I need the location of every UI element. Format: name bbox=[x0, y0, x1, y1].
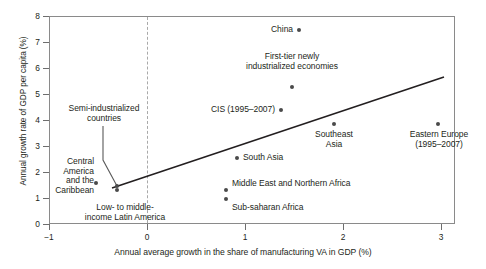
label-semi-industrialized: Semi-industrialized countries bbox=[44, 104, 164, 123]
x-axis-title: Annual average growth in the share of ma… bbox=[0, 247, 486, 257]
x-tick-mark-0 bbox=[147, 224, 148, 230]
y-tick-label-6: 6 bbox=[24, 63, 40, 73]
label-eastern-europe: Eastern Europe (1995–2007) bbox=[395, 130, 483, 149]
y-tick-mark-6 bbox=[43, 68, 49, 69]
label-central-america-caribbean: Central America and the Caribbean bbox=[38, 157, 94, 195]
scatter-chart: Annual growth rate of GDP per capita (%)… bbox=[0, 0, 486, 269]
y-tick-label-5: 5 bbox=[24, 89, 40, 99]
label-first-tier: First-tier newly industrialized economie… bbox=[222, 52, 362, 71]
x-tick-mark-neg1 bbox=[49, 224, 50, 230]
label-sub-saharan-africa: Sub-saharan Africa bbox=[232, 203, 352, 213]
y-tick-label-7: 7 bbox=[24, 37, 40, 47]
x-tick-mark-3 bbox=[441, 224, 442, 230]
y-tick-mark-1 bbox=[43, 198, 49, 199]
x-tick-label-2: 2 bbox=[331, 232, 355, 242]
x-tick-mark-2 bbox=[343, 224, 344, 230]
x-tick-label-3: 3 bbox=[429, 232, 453, 242]
x-tick-mark-1 bbox=[245, 224, 246, 230]
y-tick-mark-8 bbox=[43, 16, 49, 17]
label-cis: CIS (1995–2007) bbox=[183, 105, 275, 115]
y-tick-mark-7 bbox=[43, 42, 49, 43]
y-tick-mark-5 bbox=[43, 94, 49, 95]
y-tick-label-4: 4 bbox=[24, 115, 40, 125]
label-middle-east-northern-africa: Middle East and Northern Africa bbox=[232, 179, 412, 189]
label-south-asia: South Asia bbox=[243, 153, 323, 163]
y-tick-mark-3 bbox=[43, 146, 49, 147]
x-tick-label-neg1: −1 bbox=[37, 232, 61, 242]
x-tick-label-0: 0 bbox=[135, 232, 159, 242]
label-china: China bbox=[215, 25, 293, 35]
y-tick-label-3: 3 bbox=[24, 141, 40, 151]
y-tick-label-8: 8 bbox=[24, 11, 40, 21]
x-tick-label-1: 1 bbox=[233, 232, 257, 242]
y-tick-label-0: 0 bbox=[24, 219, 40, 229]
label-latin-america: Low- to middle- income Latin America bbox=[65, 203, 185, 222]
label-southeast-asia: Southeast Asia bbox=[302, 130, 366, 149]
